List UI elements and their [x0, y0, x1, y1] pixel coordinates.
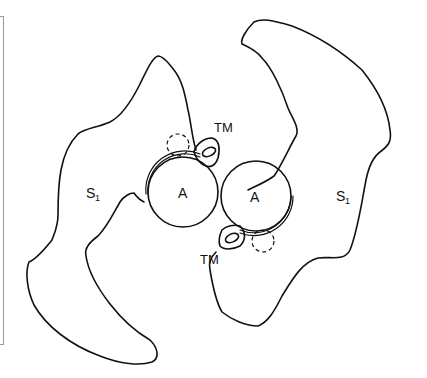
label-s-right: S	[336, 188, 345, 204]
label-a-left: A	[178, 185, 188, 201]
label-tm-bottom: TM	[200, 252, 219, 267]
bottom-tm-inner	[224, 231, 240, 244]
label-s-right-sub: 1	[345, 196, 350, 206]
top-tm-inner	[201, 145, 217, 158]
label-tm-top: TM	[214, 120, 233, 135]
right-s1-outline	[209, 20, 390, 326]
anatomical-diagram: TM TM A A S 1 S 1	[0, 0, 427, 378]
label-s-left: S	[86, 185, 95, 201]
bottom-dashed-circle	[252, 230, 274, 252]
top-dashed-circle	[167, 134, 189, 156]
label-s-left-sub: 1	[95, 193, 100, 203]
label-a-right: A	[250, 189, 260, 205]
bottom-tm-outline	[219, 225, 244, 249]
left-s1-outline	[27, 56, 196, 364]
